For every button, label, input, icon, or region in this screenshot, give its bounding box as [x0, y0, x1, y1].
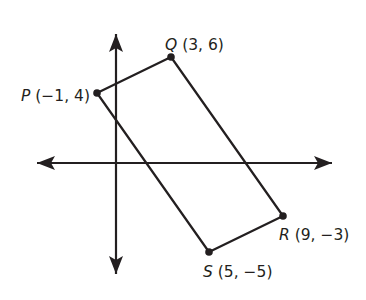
label-r-coords: (9, −3)	[290, 226, 350, 244]
label-s-letter: S	[203, 263, 213, 281]
label-p-coords: (−1, 4)	[30, 87, 90, 105]
label-r: R (9, −3)	[279, 226, 349, 244]
quadrilateral-pqrs	[97, 57, 283, 252]
label-r-letter: R	[279, 226, 290, 244]
point-p	[93, 89, 101, 97]
x-axis	[37, 156, 332, 170]
coordinate-diagram: P (−1, 4) Q (3, 6) R (9, −3) S (5, −5)	[0, 0, 366, 300]
y-axis	[109, 34, 123, 274]
point-r	[279, 212, 287, 220]
point-q	[167, 53, 175, 61]
label-q-coords: (3, 6)	[177, 36, 224, 54]
label-s: S (5, −5)	[203, 263, 272, 281]
label-q: Q (3, 6)	[165, 36, 224, 54]
label-q-letter: Q	[165, 36, 177, 54]
label-p: P (−1, 4)	[21, 87, 90, 105]
label-s-coords: (5, −5)	[213, 263, 273, 281]
point-s	[205, 248, 213, 256]
